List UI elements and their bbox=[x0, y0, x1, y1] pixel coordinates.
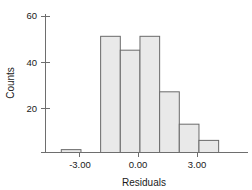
histogram-bar bbox=[199, 140, 219, 152]
x-tick-label-3: 3.00 bbox=[188, 159, 207, 170]
histogram-bars bbox=[61, 36, 218, 152]
y-tick-label-40: 40 bbox=[26, 57, 37, 68]
histogram-bar bbox=[101, 36, 121, 152]
histogram-bar bbox=[179, 124, 199, 152]
histogram-bar bbox=[140, 36, 160, 152]
x-axis-title: Residuals bbox=[122, 177, 166, 188]
y-axis-title: Counts bbox=[5, 67, 16, 99]
histogram-figure: 20 40 60 -3.00 0.00 3.00 Counts Residual… bbox=[0, 0, 252, 190]
histogram-bar bbox=[160, 92, 180, 153]
histogram-bar bbox=[120, 50, 140, 152]
x-tick-label-neg3: -3.00 bbox=[69, 159, 91, 170]
x-tick-label-0: 0.00 bbox=[129, 159, 148, 170]
residuals-histogram-plot: 20 40 60 -3.00 0.00 3.00 Counts Residual… bbox=[0, 0, 252, 190]
y-tick-label-20: 20 bbox=[26, 103, 37, 114]
y-tick-label-60: 60 bbox=[26, 10, 37, 21]
